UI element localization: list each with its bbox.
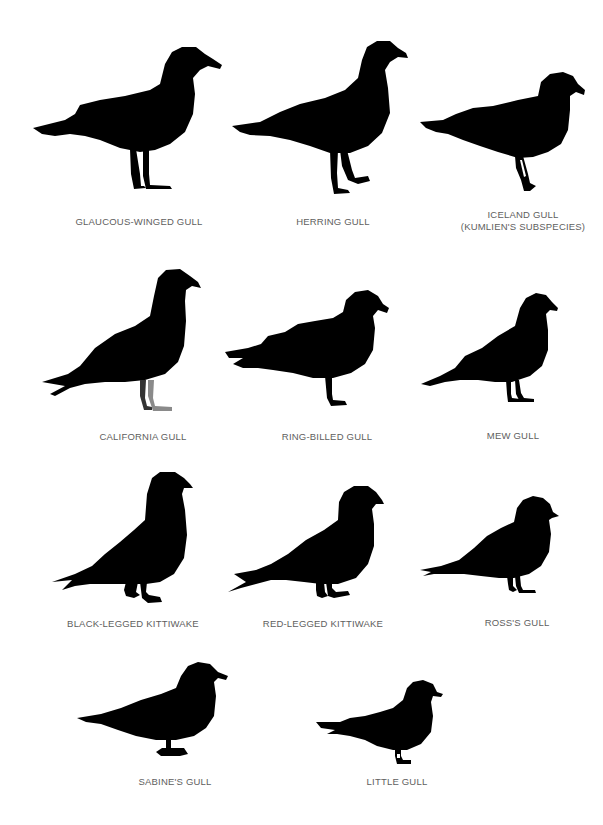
bird-label: SABINE'S GULL [138, 776, 211, 788]
bird-label: GLAUCOUS-WINGED GULL [76, 216, 203, 228]
sabines-gull-silhouette [76, 660, 228, 760]
gull-silhouette-icon [223, 288, 391, 408]
gull-silhouette-icon [40, 266, 205, 416]
red-legged-kittiwake-silhouette [226, 484, 388, 602]
black-legged-kittiwake-silhouette [50, 470, 195, 605]
gull-silhouette-icon [76, 660, 228, 760]
little-gull-silhouette [315, 676, 445, 766]
gull-silhouette-icon [315, 676, 445, 766]
ring-billed-gull-silhouette [223, 288, 391, 408]
gull-silhouette-icon [230, 38, 410, 198]
gull-silhouette-icon [50, 470, 195, 605]
herring-gull-silhouette [230, 38, 410, 198]
gull-silhouette-icon [418, 70, 590, 198]
bird-label: LITTLE GULL [367, 776, 428, 788]
gull-silhouette-icon [226, 484, 388, 602]
rosss-gull-silhouette [419, 494, 559, 594]
gull-silhouette-icon [420, 290, 560, 402]
bird-label: CALIFORNIA GULL [100, 431, 187, 443]
california-gull-silhouette [40, 266, 205, 416]
gull-silhouette-icon [30, 44, 225, 190]
bird-label: BLACK-LEGGED KITTIWAKE [67, 618, 199, 630]
bird-label: MEW GULL [487, 430, 539, 442]
bird-label: ICELAND GULL [487, 209, 558, 221]
bird-label: ROSS'S GULL [485, 617, 550, 629]
iceland-gull-silhouette [418, 70, 590, 198]
gull-silhouette-icon [419, 494, 559, 594]
bird-label-subtitle: (KUMLIEN'S SUBSPECIES) [461, 221, 585, 233]
bird-label: RED-LEGGED KITTIWAKE [263, 618, 383, 630]
glaucous-winged-gull-silhouette [30, 44, 225, 190]
bird-label: RING-BILLED GULL [282, 431, 372, 443]
mew-gull-silhouette [420, 290, 560, 402]
bird-label: HERRING GULL [296, 216, 370, 228]
